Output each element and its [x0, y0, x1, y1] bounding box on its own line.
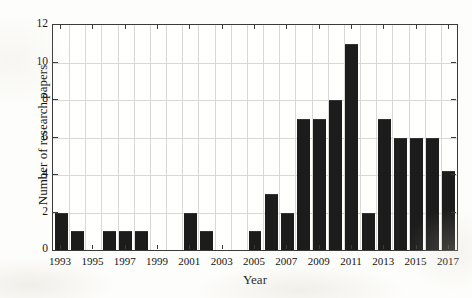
x-axis-tick-labels: 1993199519971999200120032005200720092011… [52, 255, 458, 271]
x-axis-title: Year [52, 272, 458, 288]
bar [394, 138, 407, 251]
x-axis-tick-mark [286, 245, 287, 249]
x-axis-tick-mark-top [416, 25, 417, 29]
x-axis-tick-mark-top [189, 25, 190, 29]
x-axis-tick-mark-top [286, 25, 287, 29]
x-axis-tick-label: 2017 [437, 255, 459, 267]
y-axis-tick-mark-right [451, 62, 456, 63]
x-axis-tick-label: 1993 [49, 255, 71, 267]
bar [442, 171, 455, 250]
x-axis-tick-label: 2009 [308, 255, 330, 267]
y-axis-tick-label: 4 [42, 168, 48, 180]
x-axis-tick-label: 2015 [405, 255, 427, 267]
x-axis-tick-mark-top [319, 25, 320, 29]
plot-area [52, 24, 458, 251]
x-axis-tick-label: 1997 [114, 255, 136, 267]
y-axis-tick-label: 0 [42, 243, 48, 255]
x-axis-tick-label: 2003 [211, 255, 233, 267]
bar-series [53, 25, 457, 250]
x-axis-tick-mark-top [157, 25, 158, 29]
bar [329, 100, 342, 250]
x-axis-tick-label: 2013 [372, 255, 394, 267]
x-axis-tick-label: 2007 [275, 255, 297, 267]
bar [378, 119, 391, 250]
y-axis-tick-mark-right [451, 174, 456, 175]
x-axis-tick-mark [189, 245, 190, 249]
y-axis-tick-mark [53, 137, 58, 138]
y-axis-tick-labels: 024681012 [18, 24, 48, 251]
x-axis-tick-mark [416, 245, 417, 249]
x-axis-tick-label: 2001 [178, 255, 200, 267]
x-axis-tick-mark-top [383, 25, 384, 29]
x-axis-tick-label: 1995 [81, 255, 103, 267]
bar [265, 194, 278, 250]
x-axis-tick-mark [448, 245, 449, 249]
y-axis-tick-label: 10 [37, 56, 49, 68]
x-axis-tick-mark [351, 245, 352, 249]
x-axis-tick-label: 2011 [340, 255, 362, 267]
y-axis-tick-mark [53, 99, 58, 100]
x-axis-tick-label: 1999 [146, 255, 168, 267]
bar [71, 231, 84, 250]
x-axis-tick-label: 2005 [243, 255, 265, 267]
y-axis-tick-mark [53, 212, 58, 213]
x-axis-tick-mark [319, 245, 320, 249]
bar [345, 44, 358, 250]
y-axis-tick-mark-right [451, 137, 456, 138]
y-axis-tick-mark [53, 62, 58, 63]
x-axis-tick-mark-top [92, 25, 93, 29]
bar [103, 231, 116, 250]
bar [200, 231, 213, 250]
x-axis-tick-mark [222, 245, 223, 249]
y-axis-tick-label: 2 [42, 206, 48, 218]
x-axis-tick-mark-top [60, 25, 61, 29]
y-axis-tick-label: 8 [42, 93, 48, 105]
bar-chart-figure: Number of research papers 024681012 1993… [0, 0, 472, 298]
y-axis-tick-mark-right [451, 99, 456, 100]
bar [281, 213, 294, 251]
bar [297, 119, 310, 250]
x-axis-tick-mark-top [351, 25, 352, 29]
x-axis-tick-mark [254, 245, 255, 249]
bar [362, 213, 375, 251]
y-axis-tick-mark-right [451, 212, 456, 213]
y-axis-tick-mark [53, 174, 58, 175]
x-axis-tick-mark [157, 245, 158, 249]
bar [55, 213, 68, 251]
bar [313, 119, 326, 250]
x-axis-tick-mark [383, 245, 384, 249]
y-axis-tick-label: 6 [42, 131, 48, 143]
bar [184, 213, 197, 251]
y-axis-tick-label: 12 [37, 18, 49, 30]
x-axis-tick-mark [92, 245, 93, 249]
x-axis-tick-mark-top [448, 25, 449, 29]
bar [426, 138, 439, 251]
bar [135, 231, 148, 250]
x-axis-tick-mark-top [222, 25, 223, 29]
bar [410, 138, 423, 251]
x-axis-tick-mark-top [125, 25, 126, 29]
x-axis-tick-mark [125, 245, 126, 249]
x-axis-tick-mark-top [254, 25, 255, 29]
x-axis-tick-mark [60, 245, 61, 249]
